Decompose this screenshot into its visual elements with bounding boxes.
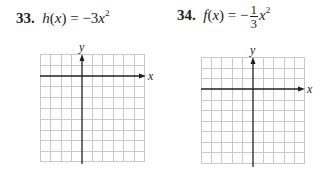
problem-34-equation: 34. f(x) = −13x2: [177, 3, 270, 30]
fraction: 13: [250, 3, 259, 30]
y-axis-label: y: [79, 40, 84, 55]
x-axis-label: x: [148, 69, 153, 84]
equals-sign: =: [70, 10, 78, 26]
variable: x: [259, 7, 266, 23]
x-axis-label: x: [307, 82, 312, 97]
paren-close: ): [61, 10, 66, 26]
x-axis-arrow-icon: [298, 87, 305, 92]
y-axis-arrow-icon: [251, 57, 256, 64]
problem-number: 33.: [16, 10, 35, 26]
problem-33-equation: 33. h(x) = −3x2: [16, 10, 110, 27]
exponent: 2: [105, 8, 110, 18]
function-name: h: [42, 10, 50, 26]
equals-sign: =: [228, 7, 236, 23]
coordinate-grid-34: [201, 57, 307, 167]
paren-close: ): [219, 7, 224, 23]
minus-sign: −: [82, 10, 90, 26]
minus-sign: −: [240, 7, 248, 23]
coordinate-grid-33: [40, 54, 146, 164]
y-axis-label: y: [250, 43, 255, 58]
y-axis-arrow-icon: [80, 54, 85, 61]
denominator: 3: [250, 17, 259, 30]
problem-number: 34.: [177, 7, 196, 23]
exponent: 2: [266, 5, 271, 15]
numerator: 1: [250, 3, 259, 17]
